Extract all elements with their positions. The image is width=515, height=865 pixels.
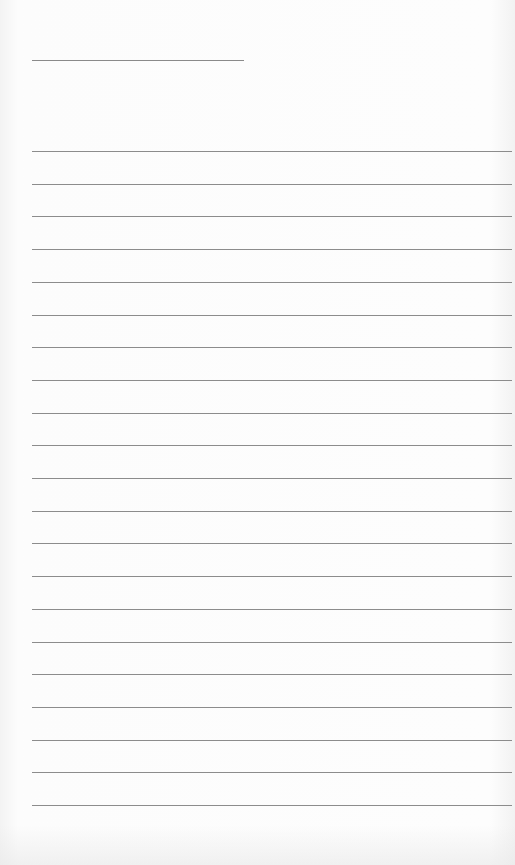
ruled-line: [32, 445, 512, 446]
ruled-line: [32, 380, 512, 381]
ruled-line: [32, 216, 512, 217]
ruled-line: [32, 184, 512, 185]
ruled-line: [32, 805, 512, 806]
ruled-line: [32, 151, 512, 152]
title-write-line: [32, 60, 244, 61]
paper-shadow: [0, 825, 515, 865]
ruled-line: [32, 315, 512, 316]
ruled-line: [32, 609, 512, 610]
ruled-line: [32, 347, 512, 348]
notepaper-page: [0, 0, 515, 865]
ruled-line: [32, 282, 512, 283]
ruled-line: [32, 740, 512, 741]
ruled-line: [32, 478, 512, 479]
ruled-line: [32, 707, 512, 708]
ruled-line: [32, 642, 512, 643]
ruled-line: [32, 543, 512, 544]
ruled-line: [32, 413, 512, 414]
ruled-line: [32, 772, 512, 773]
ruled-line: [32, 511, 512, 512]
ruled-line: [32, 249, 512, 250]
ruled-line: [32, 576, 512, 577]
ruled-line: [32, 674, 512, 675]
